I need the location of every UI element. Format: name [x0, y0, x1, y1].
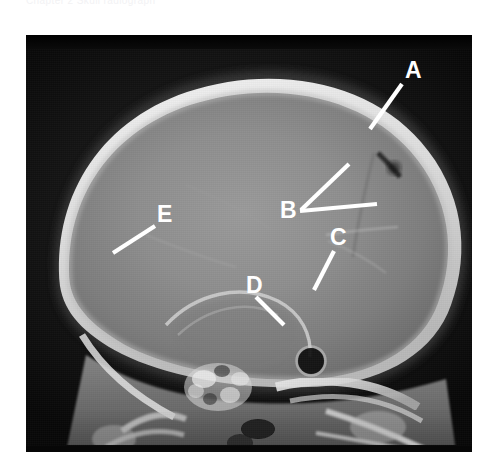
foramen-lucency-D: [298, 348, 324, 374]
top-border-band: [26, 35, 472, 49]
header-caption-text: Chapter 2 Skull radiograph: [26, 0, 155, 6]
mastoid-air-cells: [184, 363, 252, 411]
skull-radiograph-image: ABCDE: [26, 35, 472, 452]
page-header-strip: Chapter 2 Skull radiograph: [0, 0, 499, 10]
skull-anatomy-layer: [26, 35, 472, 452]
defect-A-lucency: [387, 161, 401, 175]
bottom-border-band: [26, 446, 472, 452]
